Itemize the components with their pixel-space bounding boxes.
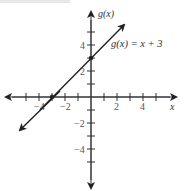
y-intercept-point (89, 56, 93, 60)
x-axis-label: x (169, 101, 175, 112)
x-tick-label: −2 (60, 101, 71, 112)
function-label: g(x) = x + 3 (111, 38, 163, 50)
x-tick-label: 4 (140, 101, 145, 112)
y-tick-label: −4 (74, 144, 85, 155)
x-intercept-point (50, 95, 54, 99)
coordinate-plane: −4 −2 2 4 x 4 2 −2 −4 g(x) g(x (0, 0, 185, 191)
x-tick-label: 2 (114, 101, 119, 112)
y-tick-label: 4 (80, 40, 85, 51)
y-axis-label: g(x) (98, 8, 115, 20)
y-axis: 4 2 −2 −4 g(x) (74, 8, 115, 188)
y-tick-label: −2 (74, 118, 85, 129)
